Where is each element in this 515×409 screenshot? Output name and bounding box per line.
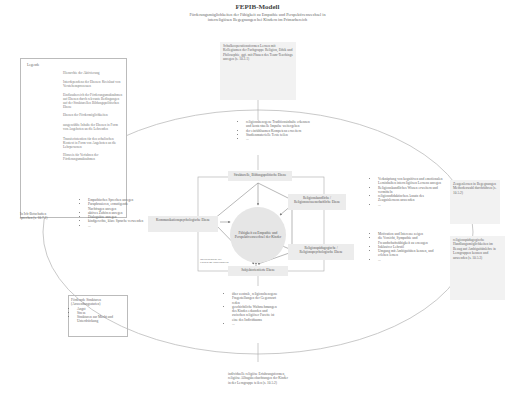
legend-label: Interdependenz der Ebenen: Kreislauf von… — [63, 80, 123, 88]
level-communication-psychology: Kommunikationspsychologische Ebene — [148, 216, 218, 232]
left-content-list: Empathisches Sprechen anregen Paraphrasi… — [82, 198, 144, 228]
bottom-offer-text: individuelle religiöse Erfahrungsformen,… — [228, 372, 288, 385]
list-item: ... — [378, 203, 444, 207]
list-item: Strukturen zur Macht und Unterdrückung — [77, 315, 125, 324]
list-item: religionsbezogene Traditionsinhalte erke… — [246, 120, 312, 129]
left-note-box: Fördernde Strukturen (Anwendungsstufen) … — [68, 295, 128, 337]
right-top-content-list: Verknüpfung von kognitiven und emotional… — [372, 177, 444, 207]
list-item: die Vorsicht, Sympathie und Freundschaft… — [378, 236, 444, 245]
center-goal-circle: Fähigkeit zu Empathie und Perspektivenwe… — [230, 207, 286, 263]
list-item: Paraphrasieren, ermutigende Nachfragen a… — [88, 202, 144, 211]
list-item: ... — [378, 258, 444, 262]
list-item: über zentrale, religionsbezogene Fragest… — [232, 292, 278, 305]
left-offer-text: In Ich-Botschaften sprechen (s. 10.7.1) — [20, 212, 50, 221]
legend-label: Einflussbereich der Förderungsmaßnahmen … — [63, 93, 123, 109]
list-item: ... — [246, 137, 312, 141]
level-religious-pedagogy: Religionspädagogische / Religionspsychol… — [288, 244, 354, 260]
top-offer-box: Schulkooperationsformen Lernen mit Kolle… — [220, 42, 296, 100]
level-structural: Strukturelle, Bildungspolitische Ebene — [228, 171, 292, 181]
right-top-offer-box: Zeugenlernen in Begegnungen Methodenwahl… — [450, 180, 500, 224]
legend-label: Transferintention für den schulischen Ko… — [63, 137, 123, 149]
level-subject-oriented: Subjektorientierte Ebene — [228, 266, 288, 276]
legend-label: Ebenen der Fördermöglichkeiten — [63, 113, 123, 117]
right-bottom-content-list: Motivation und Interesse zeigen die Vors… — [372, 232, 444, 262]
legend-title: Legende — [27, 63, 39, 67]
legend-label: Hierarchie der Aktivierung — [63, 71, 123, 75]
level-religious-studies: Religionskundliche / Religionswissenscha… — [288, 194, 346, 210]
inner-note: Interdependenz der Ebenen im Förderproze… — [200, 258, 230, 264]
legend-label: Hinweis für Verfahren der Förderungsmaßn… — [63, 153, 123, 161]
list-item: ... — [232, 322, 278, 326]
bottom-content-list: über zentrale, religionsbezogene Fragest… — [228, 292, 278, 326]
list-item: Umgang mit Ambiguitäten kennen, und erle… — [378, 249, 444, 258]
list-item: geschichtliche Wahrnehmungen des Kindes … — [232, 305, 278, 322]
list-item: ... — [88, 224, 144, 228]
list-item: Religionskundliches Wissen erweitern und… — [378, 186, 444, 195]
top-content-list: religionsbezogene Traditionsinhalte erke… — [240, 120, 312, 141]
right-bottom-offer-box: religionspädagogische Handlungsmöglichke… — [450, 236, 505, 300]
list-item: kindgerechte, klare Sprache verwenden — [88, 219, 144, 223]
subtitle-line-2: interreligiösen Begegnungen bei Kindern … — [120, 17, 395, 22]
legend-label: ausgewählte Inhalte der Ebenen in Form v… — [63, 123, 123, 131]
legend-box: Legende Hierarchie der Aktivierung Inter… — [20, 58, 127, 218]
left-note-title: Fördernde Strukturen (Anwendungsstufen) — [71, 298, 125, 307]
diagram-title: FEPIB-Modell — [0, 3, 515, 11]
list-item: religionsdidaktischen Ansatz des Zeugnis… — [378, 194, 444, 203]
diagram-subtitle: Förderungsmöglichkeiten der Fähigkeit zu… — [120, 12, 395, 22]
list-item: Verknüpfung von kognitiven und emotional… — [378, 177, 444, 186]
